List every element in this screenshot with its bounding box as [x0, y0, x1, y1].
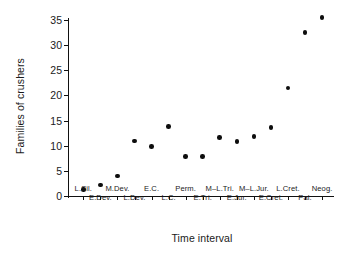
data-point: [269, 125, 274, 130]
x-tick-label-14: Neog.: [312, 184, 333, 193]
data-point: [200, 154, 205, 159]
x-tick-label-3: L.Dev.: [124, 193, 146, 202]
x-tick-label-13: Pal.: [298, 193, 312, 202]
y-axis-line: [68, 18, 69, 198]
x-tick-label-2: M.Dev.: [105, 184, 129, 193]
y-tick-label: 35: [50, 14, 62, 26]
plot-area: 05101520253035: [68, 18, 336, 196]
data-point: [132, 139, 137, 144]
data-point: [235, 139, 240, 144]
y-tick-label: 30: [50, 39, 62, 51]
x-tick-label-0: L.Sil.: [75, 184, 92, 193]
data-point: [286, 86, 291, 91]
x-tick-12: [288, 196, 289, 200]
x-tick-label-4: E.C.: [144, 184, 159, 193]
x-tick-label-12: L.Cret.: [276, 184, 300, 193]
x-tick-label-10: M–L.Jur.: [239, 184, 269, 193]
x-tick-10: [254, 196, 255, 200]
x-tick-label-6: Perm.: [175, 184, 196, 193]
y-tick-5: [64, 171, 68, 172]
y-tick-label: 25: [50, 64, 62, 76]
x-tick-label-1: E.Dev.: [89, 193, 112, 202]
y-tick-10: [64, 146, 68, 147]
data-point: [303, 30, 308, 35]
scatter-chart-figure: Families of crushers 05101520253035 L.Si…: [0, 0, 347, 254]
y-tick-20: [64, 95, 68, 96]
x-tick-0: [83, 196, 84, 200]
x-tick-label-5: L.C.: [161, 193, 175, 202]
y-tick-label: 20: [50, 89, 62, 101]
data-point: [217, 135, 222, 140]
y-tick-label: 5: [56, 165, 62, 177]
y-tick-label: 0: [56, 190, 62, 202]
x-axis-title: Time interval: [68, 232, 336, 244]
y-tick-0: [64, 196, 68, 197]
data-point: [98, 183, 103, 188]
x-tick-6: [186, 196, 187, 200]
y-tick-label: 10: [50, 140, 62, 152]
x-tick-label-9: E.Jur.: [227, 193, 247, 202]
x-tick-label-11: E.Cret.: [259, 193, 283, 202]
data-point: [166, 124, 171, 129]
data-point: [115, 174, 120, 179]
y-tick-35: [64, 20, 68, 21]
data-point: [320, 15, 325, 20]
y-axis-title: Families of crushers: [14, 6, 30, 206]
y-tick-label: 15: [50, 115, 62, 127]
x-tick-14: [322, 196, 323, 200]
y-tick-30: [64, 45, 68, 46]
data-point: [149, 144, 154, 149]
x-tick-label-8: M–L.Tri.: [206, 184, 234, 193]
x-tick-4: [152, 196, 153, 200]
data-point: [183, 154, 188, 159]
x-tick-8: [220, 196, 221, 200]
x-tick-label-7: E.Tri.: [193, 193, 211, 202]
y-tick-15: [64, 121, 68, 122]
x-tick-2: [117, 196, 118, 200]
y-tick-25: [64, 70, 68, 71]
data-point: [252, 134, 257, 139]
